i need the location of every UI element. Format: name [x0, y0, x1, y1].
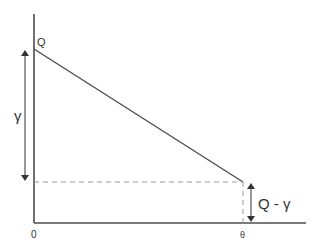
decline-line: [34, 49, 243, 182]
diagram-canvas: Q γ Q - γ 0 θ: [0, 0, 320, 248]
label-origin: 0: [31, 229, 37, 240]
label-theta: θ: [240, 230, 245, 240]
label-gamma: γ: [14, 107, 22, 124]
label-q: Q: [37, 36, 46, 48]
label-difference: Q - γ: [258, 195, 291, 212]
